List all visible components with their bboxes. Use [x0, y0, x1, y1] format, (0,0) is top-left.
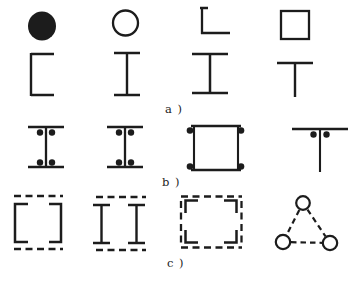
i-beam-section [114, 52, 140, 96]
figure-page: a ) [0, 0, 357, 283]
caption-b: b ) [162, 175, 181, 189]
riveted-i-section-1 [28, 127, 64, 167]
laced-four-angle-section [181, 197, 242, 248]
figure-canvas: a ) [0, 0, 357, 283]
laced-double-i-section [93, 197, 146, 250]
channel-section [31, 53, 54, 96]
caption-a: a ) [165, 102, 183, 116]
hollow-circle-section [113, 11, 138, 36]
wide-i-beam-section [192, 53, 228, 94]
tee-section [277, 62, 313, 97]
hollow-square-section [281, 11, 309, 39]
laced-three-tube-section [276, 196, 337, 250]
angle-section [200, 7, 230, 34]
laced-double-channel-section [14, 196, 63, 249]
solid-circle-section [28, 12, 56, 41]
riveted-tee-section [292, 129, 348, 172]
caption-c: c ) [167, 256, 185, 270]
riveted-i-section-2 [107, 127, 143, 167]
riveted-box-section [187, 126, 245, 170]
